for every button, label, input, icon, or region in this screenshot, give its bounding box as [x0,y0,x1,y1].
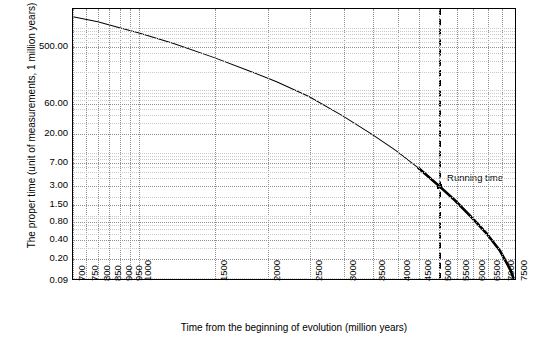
y-tick-label: 0.20 [50,254,69,264]
gridline-y-minor [73,159,515,160]
gridline-x [373,9,374,279]
x-axis-tick-labels: 7007508008509009501000150020002500300035… [72,281,516,321]
y-tick-label: 3.00 [50,180,69,190]
x-tick-label: 5000 [442,260,453,281]
gridline-y-minor [73,153,515,154]
gridline-x [86,9,87,279]
gridline-y-minor [73,167,515,168]
gridline-y [73,222,515,223]
gridline-y-minor [73,248,515,249]
x-tick-label: 7000 [505,260,516,281]
gridline-x [130,9,131,279]
x-tick-label: 7500 [518,260,529,281]
gridline-y-minor [73,100,515,101]
gridline-y-minor [73,115,515,116]
gridline-y-minor [73,218,515,219]
gridline-x [344,9,345,279]
x-tick-label: 3500 [376,260,387,281]
x-tick-label: 700 [76,265,87,281]
gridline-y-minor [73,225,515,226]
gridline-y-minor [73,216,515,217]
y-tick-label: 0.80 [50,216,69,226]
x-axis-title: Time from the beginning of evolution (mi… [72,322,516,333]
gridline-x [502,9,503,279]
gridline-y-minor [73,123,515,124]
gridline-y-minor [73,61,515,62]
gridline-y-minor [73,53,515,54]
y-tick-label: 60.00 [44,99,68,109]
gridline-y-minor [73,234,515,235]
x-tick-label: 4000 [401,260,412,281]
gridline-x [419,9,420,279]
y-tick-label: 500.00 [39,41,68,51]
x-tick-label: 2000 [271,260,282,281]
gridline-y [73,240,515,241]
x-tick-label: 750 [89,265,100,281]
gridline-y-minor [73,197,515,198]
y-tick-label: 1.50 [50,199,69,209]
gridline-y-minor [73,34,515,35]
plot-area: Running time [72,8,516,280]
y-tick-label: 0.09 [50,275,69,285]
gridline-x [215,9,216,279]
gridline-y-minor [73,42,515,43]
gridline-y [73,104,515,105]
gridline-y-minor [73,96,515,97]
x-tick-label: 850 [112,265,123,281]
gridline-x [139,9,140,279]
gridline-x [398,9,399,279]
x-tick-label: 2500 [313,260,324,281]
gridline-x [457,9,458,279]
gridline-x [109,9,110,279]
y-tick-label: 7.00 [50,157,69,167]
gridline-y-minor [73,178,515,179]
x-tick-label: 1000 [142,260,153,281]
x-tick-label: 1500 [218,260,229,281]
x-tick-label: 5500 [460,260,471,281]
gridline-x [473,9,474,279]
gridline-y-minor [73,229,515,230]
x-tick-label: 800 [101,265,112,281]
gridline-x [310,9,311,279]
y-axis-tick-labels: 0.090.200.400.801.503.007.0020.0060.0050… [0,8,68,280]
gridline-x [268,9,269,279]
x-tick-label: 4500 [422,260,433,281]
y-tick-label: 0.40 [50,235,69,245]
gridline-y-minor [73,172,515,173]
gridline-y-minor [73,156,515,157]
x-tick-label: 6000 [476,260,487,281]
gridline-y [73,134,515,135]
gridline-x [515,9,516,279]
gridline-x [488,9,489,279]
gridline-y-minor [73,90,515,91]
x-tick-label: 3000 [347,260,358,281]
gridline-x [73,9,74,279]
y-tick-label: 20.00 [44,128,68,138]
gridline-y-minor [73,38,515,39]
gridline-x [120,9,121,279]
gridline-y-minor [73,31,515,32]
gridline-y-minor [73,109,515,110]
gridline-y-minor [73,28,515,29]
gridline-x [439,9,440,279]
gridline-y [73,205,515,206]
gridline-y [73,47,515,48]
gridline-y [73,163,515,164]
gridline-x [98,9,99,279]
gridline-y [73,186,515,187]
gridline-y-minor [73,93,515,94]
chart-container: The proper time (unit of measurements, 1… [0,0,534,339]
gridline-y-minor [73,72,515,73]
x-tick-label: 6500 [491,260,502,281]
